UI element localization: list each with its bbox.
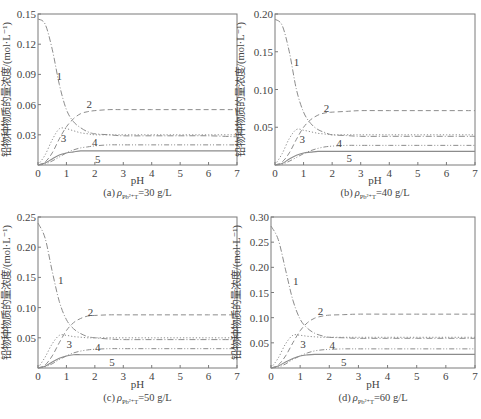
y-tick-label: 0.25 bbox=[17, 211, 37, 223]
y-tick-label: 0.05 bbox=[17, 332, 37, 344]
panel-caption: (d)ρPb²⁺T=60 g/L bbox=[338, 392, 407, 405]
curve-2 bbox=[38, 110, 237, 165]
y-tick-label: 0.12 bbox=[17, 38, 36, 50]
y-tick-label: 0.30 bbox=[250, 211, 270, 223]
y-tick-label: 0.03 bbox=[17, 129, 37, 141]
x-tick-label: 1 bbox=[301, 167, 307, 179]
curve-1 bbox=[275, 19, 475, 136]
x-tick-label: 0 bbox=[268, 370, 274, 382]
x-tick-label: 6 bbox=[206, 370, 212, 382]
curve-3 bbox=[275, 129, 475, 165]
curve-label-4: 4 bbox=[337, 137, 343, 149]
x-tick-label: 3 bbox=[358, 167, 364, 179]
curve-label-2: 2 bbox=[88, 306, 94, 318]
curve-1 bbox=[271, 226, 475, 338]
x-tick-label: 7 bbox=[234, 370, 240, 382]
y-tick-label: 0.15 bbox=[17, 271, 37, 283]
curve-label-1: 1 bbox=[58, 274, 64, 286]
x-tick-label: 2 bbox=[329, 167, 335, 179]
y-axis-label: 铅物种物质的量浓度/(mol·L⁻¹) bbox=[0, 225, 13, 360]
curve-5 bbox=[275, 151, 475, 165]
panel-caption: (b)ρPb²⁺T=40 g/L bbox=[340, 187, 409, 200]
plot-frame bbox=[38, 14, 237, 165]
x-tick-label: 5 bbox=[415, 167, 421, 179]
y-tick-label: 0.20 bbox=[17, 241, 37, 253]
y-tick-label: 0.09 bbox=[17, 68, 37, 80]
x-tick-label: 0 bbox=[272, 167, 278, 179]
curve-label-5: 5 bbox=[347, 152, 353, 164]
y-tick-label: 0.15 bbox=[250, 287, 270, 299]
figure-canvas: 012345670.030.060.090.120.15铅物种物质的量浓度/(m… bbox=[0, 0, 481, 419]
x-tick-label: 7 bbox=[234, 167, 240, 179]
curve-label-4: 4 bbox=[92, 136, 98, 148]
curve-label-2: 2 bbox=[318, 305, 324, 317]
x-tick-label: 2 bbox=[92, 167, 98, 179]
x-tick-label: 6 bbox=[443, 370, 449, 382]
x-axis-label: pH bbox=[131, 174, 145, 186]
x-tick-label: 1 bbox=[64, 167, 70, 179]
y-tick-label: 0.05 bbox=[254, 121, 274, 133]
y-tick-label: 0.25 bbox=[250, 236, 270, 248]
curve-label-3: 3 bbox=[67, 338, 73, 350]
y-tick-label: 0.15 bbox=[17, 8, 37, 20]
x-tick-label: 5 bbox=[177, 370, 183, 382]
curve-5 bbox=[38, 151, 237, 165]
y-axis-label: 铅物种物质的量浓度/(mol·L⁻¹) bbox=[0, 22, 13, 157]
y-tick-label: 0.10 bbox=[17, 302, 37, 314]
x-tick-label: 6 bbox=[444, 167, 450, 179]
curve-4 bbox=[38, 349, 237, 368]
curve-label-1: 1 bbox=[293, 275, 299, 287]
curve-label-3: 3 bbox=[299, 133, 305, 145]
x-tick-label: 0 bbox=[35, 167, 41, 179]
curve-label-4: 4 bbox=[95, 341, 101, 353]
curve-4 bbox=[275, 145, 475, 165]
x-tick-label: 4 bbox=[149, 167, 155, 179]
plot-frame bbox=[275, 14, 475, 165]
x-tick-label: 4 bbox=[149, 370, 155, 382]
y-tick-label: 0.06 bbox=[17, 99, 37, 111]
curve-2 bbox=[275, 111, 475, 165]
x-axis-label: pH bbox=[366, 378, 380, 390]
y-tick-label: 0.20 bbox=[254, 8, 274, 20]
y-tick-label: 0.15 bbox=[254, 46, 274, 58]
chart-panel-b: 012345670.050.100.150.20铅物种物质的量浓度/(mol·L… bbox=[234, 8, 478, 200]
curve-label-4: 4 bbox=[329, 339, 335, 351]
y-tick-label: 0.10 bbox=[254, 84, 274, 96]
x-tick-label: 1 bbox=[64, 370, 70, 382]
curve-4 bbox=[271, 349, 475, 368]
x-tick-label: 7 bbox=[472, 370, 478, 382]
x-tick-label: 3 bbox=[121, 167, 127, 179]
x-axis-label: pH bbox=[131, 378, 145, 390]
curve-label-5: 5 bbox=[95, 153, 101, 165]
y-tick-label: 0.05 bbox=[250, 337, 270, 349]
curve-label-2: 2 bbox=[324, 102, 330, 114]
curve-label-5: 5 bbox=[109, 356, 115, 368]
curve-3 bbox=[38, 128, 237, 165]
curve-label-1: 1 bbox=[294, 56, 300, 68]
x-tick-label: 3 bbox=[356, 370, 362, 382]
x-tick-label: 5 bbox=[177, 167, 183, 179]
y-axis-label: 铅物种物质的量浓度/(mol·L⁻¹) bbox=[234, 22, 247, 157]
curve-label-3: 3 bbox=[61, 132, 67, 144]
curve-1 bbox=[38, 19, 237, 137]
x-tick-label: 2 bbox=[327, 370, 333, 382]
curve-5 bbox=[271, 354, 475, 368]
curve-1 bbox=[38, 223, 237, 340]
chart-panel-d: 012345670.050.100.150.200.250.30铅物种物质的量浓… bbox=[230, 211, 478, 405]
x-tick-label: 4 bbox=[385, 370, 391, 382]
curve-label-3: 3 bbox=[300, 338, 306, 350]
chart-panel-a: 012345670.030.060.090.120.15铅物种物质的量浓度/(m… bbox=[0, 8, 240, 200]
chart-panel-c: 012345670.050.100.150.200.25铅物种物质的量浓度/(m… bbox=[0, 211, 240, 405]
y-axis-label: 铅物种物质的量浓度/(mol·L⁻¹) bbox=[230, 225, 243, 360]
curve-label-1: 1 bbox=[57, 70, 63, 82]
panel-caption: (a)ρPb²⁺T=30 g/L bbox=[103, 187, 172, 200]
curve-5 bbox=[38, 355, 237, 368]
x-axis-label: pH bbox=[368, 174, 382, 186]
y-tick-label: 0.20 bbox=[250, 261, 270, 273]
x-tick-label: 3 bbox=[121, 370, 127, 382]
x-tick-label: 1 bbox=[297, 370, 303, 382]
x-tick-label: 5 bbox=[414, 370, 420, 382]
x-tick-label: 2 bbox=[92, 370, 98, 382]
curve-label-5: 5 bbox=[341, 356, 347, 368]
curve-label-2: 2 bbox=[86, 98, 92, 110]
